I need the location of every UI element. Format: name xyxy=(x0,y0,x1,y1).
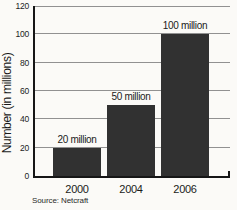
y-tick-label: 60 xyxy=(0,86,29,96)
y-tick-label: 80 xyxy=(0,58,29,68)
x-tick-label: 2004 xyxy=(101,183,161,196)
gridline xyxy=(35,6,230,7)
x-axis-end-tick xyxy=(228,171,230,176)
y-tick-label: 120 xyxy=(0,1,29,11)
y-tick-label: 20 xyxy=(0,143,29,153)
y-tick-label: 100 xyxy=(0,29,29,39)
y-tick-label: 40 xyxy=(0,114,29,124)
y-axis-title: Number (in millions) xyxy=(0,18,14,188)
bar-chart: Number (in millions) 20 million50 millio… xyxy=(0,0,237,210)
plot-area: 20 million50 million100 million xyxy=(33,6,230,178)
bar-value-label: 100 million xyxy=(143,20,227,31)
y-tick-label: 0 xyxy=(0,171,29,181)
bar-2004 xyxy=(107,105,155,176)
source-note: Source: Netcraft xyxy=(32,196,88,206)
x-tick-label: 2000 xyxy=(47,183,107,196)
bar-2000 xyxy=(53,148,101,176)
bar-2006 xyxy=(161,34,209,176)
x-tick-label: 2006 xyxy=(155,183,215,196)
